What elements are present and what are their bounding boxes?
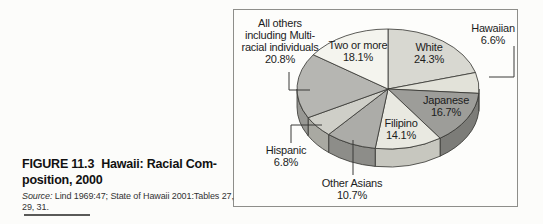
pie-label-value: 14.1% xyxy=(370,129,432,141)
pie-label-text: Japanese xyxy=(414,94,478,106)
pie-label-text: Other Asians xyxy=(310,177,394,189)
pie-label-text: Filipino xyxy=(370,117,432,129)
pie-label-two-or-more: Two or more 18.1% xyxy=(314,39,402,63)
pie-label-value: 24.3% xyxy=(398,53,460,65)
figure-source: Source: Lind 1969:47; State of Hawaii 20… xyxy=(22,191,236,212)
pie-label-value: 10.7% xyxy=(310,189,394,201)
pie-label-text: including Multi- xyxy=(238,29,322,41)
pie-label-value: 18.1% xyxy=(314,51,402,63)
chart-box: All others including Multi- racial indiv… xyxy=(233,9,518,207)
figure-title-part-1: Hawaii: Racial Com- xyxy=(101,157,217,171)
pie-label-text: Hispanic xyxy=(254,144,318,156)
footer-rule xyxy=(24,214,90,216)
pie-label-japanese: Japanese 16.7% xyxy=(414,94,478,118)
pie-label-text: racial individuals xyxy=(238,41,322,53)
figure-number-label: FIGURE 11.3 xyxy=(22,157,94,171)
source-prefix: Source: xyxy=(22,191,52,201)
pie-label-white: White 24.3% xyxy=(398,41,460,65)
figure-page: All others including Multi- racial indiv… xyxy=(0,0,543,224)
pie-label-value: 6.8% xyxy=(254,156,318,168)
figure-caption: FIGURE 11.3Hawaii: Racial Com- position,… xyxy=(22,156,236,212)
pie-label-hispanic: Hispanic 6.8% xyxy=(254,144,318,168)
source-line-2: 29, 31. xyxy=(22,202,49,212)
pie-label-other-asians: Other Asians 10.7% xyxy=(310,177,394,201)
pie-label-all-others: All others including Multi- racial indiv… xyxy=(238,17,322,65)
hawaiian-leader-line xyxy=(489,46,514,77)
pie-label-text: White xyxy=(398,41,460,53)
pie-label-value: 6.6% xyxy=(460,34,526,46)
caption-title-line-2: position, 2000 xyxy=(22,172,236,188)
pie-label-value: 20.8% xyxy=(238,53,322,65)
pie-label-filipino: Filipino 14.1% xyxy=(370,117,432,141)
source-line-1: Lind 1969:47; State of Hawaii 2001:Table… xyxy=(52,191,234,201)
pie-label-text: Hawaiian xyxy=(460,22,526,34)
pie-label-text: Two or more xyxy=(314,39,402,51)
pie-label-hawaiian: Hawaiian 6.6% xyxy=(460,22,526,46)
caption-title-line-1: FIGURE 11.3Hawaii: Racial Com- xyxy=(22,156,236,172)
pie-label-text: All others xyxy=(238,17,322,29)
